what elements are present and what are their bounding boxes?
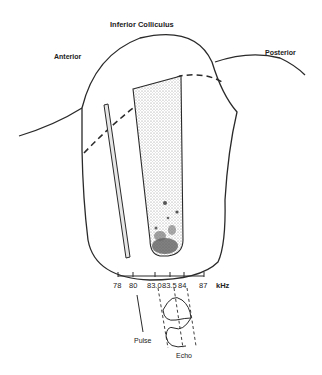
echo-signal bbox=[158, 288, 196, 348]
tick-83-5: 83.5 bbox=[162, 281, 177, 290]
anterior-label: Anterior bbox=[54, 53, 81, 60]
posterior-label: Posterior bbox=[265, 49, 296, 56]
pulse-line bbox=[137, 295, 143, 332]
brainstem-surface-anterior bbox=[19, 108, 82, 136]
unit-khz: kHz bbox=[216, 281, 229, 290]
title-label: Inferior Colliculus bbox=[110, 20, 174, 29]
inferior-colliculus-diagram bbox=[0, 0, 322, 375]
brainstem-surface-posterior bbox=[215, 55, 305, 75]
tick-83-0: 83.0 bbox=[147, 281, 162, 290]
narrow-lamina-80khz bbox=[104, 104, 130, 258]
tick-87: 87 bbox=[199, 281, 207, 290]
pulse-label: Pulse bbox=[134, 337, 152, 344]
tick-80: 80 bbox=[129, 281, 137, 290]
tick-84: 84 bbox=[178, 281, 186, 290]
tick-78: 78 bbox=[113, 281, 121, 290]
echo-label: Echo bbox=[176, 352, 192, 359]
frequency-axis bbox=[118, 272, 204, 277]
